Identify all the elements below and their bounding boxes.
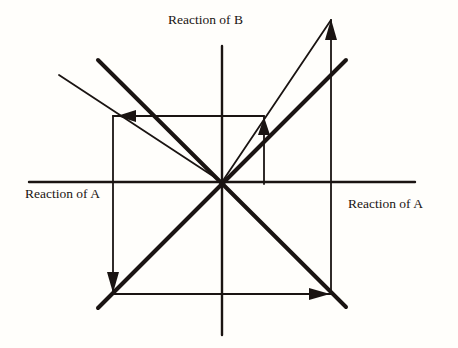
thin-ray-upper-right [222,20,331,182]
arrow-up-outer [325,19,337,40]
thin-ray-upper-left [59,75,222,182]
horizontal-axis-label-left: Reaction of A [25,186,100,202]
vertical-axis-label: Reaction of B [168,12,243,28]
reaction-diagram [0,0,458,348]
horizontal-axis-label-right: Reaction of A [348,196,423,212]
